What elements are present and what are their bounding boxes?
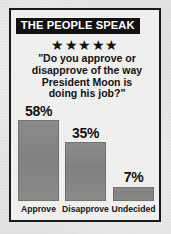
infographic-frame: THE PEOPLE SPEAK ★★★★★ "Do you approve o… bbox=[9, 8, 161, 222]
question-line-2: disapprove of the way bbox=[19, 65, 155, 77]
bar-label-approve: Approve bbox=[12, 205, 65, 214]
header-banner: THE PEOPLE SPEAK bbox=[16, 18, 140, 34]
question-line-4: doing his job?" bbox=[19, 88, 155, 100]
newspaper-poll-infographic: THE PEOPLE SPEAK ★★★★★ "Do you approve o… bbox=[0, 0, 171, 234]
poll-question: "Do you approve or disapprove of the way… bbox=[19, 53, 155, 100]
bar-value-undecided: 7% bbox=[113, 170, 154, 184]
chart-baseline bbox=[13, 205, 157, 206]
bar-rect-undecided bbox=[113, 187, 154, 201]
bar-value-disapprove: 35% bbox=[65, 126, 106, 140]
bar-rect-approve bbox=[18, 120, 59, 201]
bar-rect-disapprove bbox=[65, 142, 106, 201]
bar-value-approve: 58% bbox=[18, 104, 59, 118]
bar-label-disapprove: Disapprove bbox=[59, 205, 112, 214]
bar-label-undecided: Undecided bbox=[107, 205, 160, 214]
banner-title: THE PEOPLE SPEAK bbox=[16, 20, 135, 32]
star-rating: ★★★★★ bbox=[11, 38, 159, 52]
